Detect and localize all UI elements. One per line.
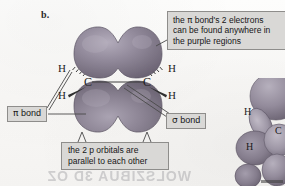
callout-electrons-line-2: can be found anywhere in [173, 25, 285, 35]
callout-electrons-line-1: the π bond's 2 electrons [173, 15, 285, 25]
bond-h-upper-right [151, 67, 163, 76]
callout-sigma-bond: σ bond [166, 113, 206, 129]
callout-parallel-line-2: parallel to each other [68, 156, 164, 167]
electrons-callout-leader [156, 40, 167, 46]
adjacent-figure-partial: H H C [222, 78, 285, 186]
sigma-bond-text: bond [178, 115, 201, 125]
callout-pi-bond: π bond [7, 106, 47, 122]
scan-bleed-artifact-text: WOLSZIBUA 3D OZ [6, 168, 191, 184]
right-figure-lobe-bottom-left [235, 164, 261, 186]
atom-label-carbon-left: C [84, 76, 92, 88]
right-figure-atom-h-upper: H [244, 106, 251, 117]
parallel-caption-connectors [78, 132, 151, 142]
page-edge-mark [261, 180, 283, 183]
atom-label-h-upper-right: H [168, 63, 176, 74]
sigma-bond-leader-lines [124, 85, 170, 117]
pi-bond-leader-lines [47, 70, 86, 114]
pi-bond-text: bond [18, 108, 41, 118]
figure-container: b. [0, 0, 285, 186]
callout-parallel-line-1: the 2 p orbitals are [68, 145, 164, 156]
right-figure-atom-h-lower: H [246, 141, 253, 152]
bond-h-upper-left [73, 67, 85, 76]
atom-label-h-upper-left: H [58, 63, 66, 74]
atom-label-h-lower-left: H [58, 90, 66, 101]
callout-parallel-p-orbitals: the 2 p orbitals are parallel to each ot… [61, 142, 169, 170]
atom-label-carbon-right: C [143, 76, 151, 88]
callout-pi-electrons: the π bond's 2 electrons can be found an… [167, 11, 285, 50]
atom-label-h-lower-right: H [168, 90, 176, 101]
right-figure-atom-carbon: C [275, 125, 282, 136]
bond-h-lower-right [149, 87, 167, 98]
callout-electrons-line-3: the purple regions [173, 36, 285, 46]
